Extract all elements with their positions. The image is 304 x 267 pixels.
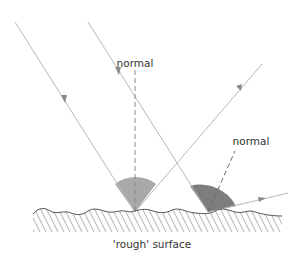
reflection-diagram: normal normal 'rough' surface [0,0,304,267]
hatch-line [44,204,58,232]
hatch-line [116,204,130,232]
hatch-line [146,204,160,232]
hatch-line [98,204,112,232]
hatch-line [104,204,118,232]
hatch-line [266,204,280,232]
hatch-line [230,204,244,232]
hatch-line [38,204,52,232]
hatch-line [158,204,172,232]
hatch-line [278,204,292,232]
hatch-line [242,204,256,232]
hatch-line [284,204,298,232]
hatch-line [20,204,34,232]
hatch-line [56,204,70,232]
hatch-line [86,204,100,232]
incident-ray-1 [15,22,135,212]
normal-label-left: normal [117,57,154,69]
surface-label: 'rough' surface [113,238,191,250]
hatch-line [236,204,250,232]
hatch-line [92,204,106,232]
hatch-line [62,204,76,232]
hatch-line [188,204,202,232]
hatch-line [68,204,82,232]
reflected-ray-2-arrow-icon [258,197,266,202]
hatch-line [296,204,304,232]
hatch-line [182,204,196,232]
incident-ray-1-arrow-icon [61,95,67,103]
hatch-line [26,204,40,232]
hatch-line [152,204,166,232]
hatch-line [248,204,262,232]
hatch-line [80,204,94,232]
hatch-line [164,204,178,232]
reflected-ray-1-arrow-icon [236,84,242,91]
hatch-line [176,204,190,232]
hatch-line [254,204,268,232]
hatch-line [50,204,64,232]
normal-label-right: normal [233,135,270,147]
angle-sector-right [190,185,236,212]
hatch-line [74,204,88,232]
hatch-line [110,204,124,232]
hatch-line [140,204,154,232]
hatch-line [260,204,274,232]
hatch-line [170,204,184,232]
hatch-line [272,204,286,232]
hatch-line [290,204,304,232]
surface-hatching [20,204,304,232]
